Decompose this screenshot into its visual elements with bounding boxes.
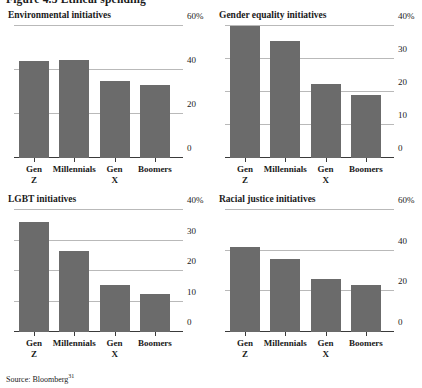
y-axis-tick-label: 40 — [187, 55, 196, 65]
y-axis-tick-label: 40% — [398, 11, 415, 21]
source-label: Source: Bloomberg — [6, 375, 68, 384]
x-tick-mark — [366, 332, 367, 336]
bar[interactable] — [230, 247, 260, 332]
bar[interactable] — [140, 294, 170, 332]
bar-slot — [225, 210, 265, 332]
chart-panel-environmental: Environmental initiatives 0204060% GenZM… — [0, 10, 211, 194]
chart-title: Environmental initiatives — [8, 10, 111, 20]
plot-area: 010203040% — [14, 210, 175, 332]
chart-grid: Environmental initiatives 0204060% GenZM… — [0, 10, 422, 368]
x-axis: GenZMillennialsGenXBoomers — [225, 158, 386, 194]
y-axis-tick-label: 10 — [187, 287, 196, 297]
bar[interactable] — [351, 285, 381, 332]
y-axis-tick-label: 0 — [398, 143, 403, 153]
x-tick-mark — [155, 158, 156, 162]
bar[interactable] — [351, 95, 381, 158]
x-axis-tick-label: Boomers — [129, 164, 181, 175]
y-axis-tick-label: 20 — [398, 77, 407, 87]
y-axis-tick-label: 20 — [398, 276, 407, 286]
bar[interactable] — [230, 26, 260, 158]
bar-group — [14, 26, 175, 158]
bar[interactable] — [19, 222, 49, 332]
chart-title: Racial justice initiatives — [219, 194, 316, 204]
bar[interactable] — [100, 81, 130, 158]
x-tick-mark — [326, 332, 327, 336]
x-tick-mark — [34, 332, 35, 336]
bar-slot — [265, 26, 305, 158]
figure-heading: Figure 4.3 Ethical spending — [6, 0, 146, 5]
bar-slot — [95, 26, 135, 158]
x-tick-slot: Boomers — [346, 158, 386, 194]
bar-slot — [54, 210, 94, 332]
x-tick-mark — [74, 158, 75, 162]
y-axis-tick-label: 40 — [398, 236, 407, 246]
bar[interactable] — [59, 251, 89, 332]
x-tick-slot: Boomers — [346, 332, 386, 368]
x-tick-mark — [115, 158, 116, 162]
bar-group — [225, 210, 386, 332]
bar-slot — [14, 26, 54, 158]
x-tick-mark — [366, 158, 367, 162]
bar-slot — [306, 210, 346, 332]
x-axis: GenZMillennialsGenXBoomers — [14, 332, 175, 368]
x-tick-mark — [245, 332, 246, 336]
chart-title: Gender equality initiatives — [219, 10, 327, 20]
bar-slot — [306, 26, 346, 158]
bar-group — [14, 210, 175, 332]
y-axis-tick-label: 60% — [187, 11, 204, 21]
y-axis-tick-label: 0 — [187, 143, 192, 153]
x-axis: GenZMillennialsGenXBoomers — [14, 158, 175, 194]
x-tick-mark — [285, 332, 286, 336]
x-tick-mark — [245, 158, 246, 162]
x-tick-mark — [285, 158, 286, 162]
y-axis-tick-label: 0 — [398, 317, 403, 327]
y-axis-tick-label: 30 — [187, 226, 196, 236]
x-axis-tick-label: Boomers — [340, 338, 392, 349]
bar[interactable] — [270, 41, 300, 158]
y-axis-tick-label: 60% — [398, 195, 415, 205]
x-axis: GenZMillennialsGenXBoomers — [225, 332, 386, 368]
plot-area: 0204060% — [225, 210, 386, 332]
bar-slot — [265, 210, 305, 332]
x-tick-slot: Boomers — [135, 332, 175, 368]
plot-area: 0204060% — [14, 26, 175, 158]
x-axis-tick-label: Boomers — [340, 164, 392, 175]
bar[interactable] — [59, 60, 89, 158]
bar[interactable] — [270, 259, 300, 332]
bar[interactable] — [100, 285, 130, 332]
bar-slot — [225, 26, 265, 158]
bar[interactable] — [140, 85, 170, 158]
x-tick-mark — [326, 158, 327, 162]
x-tick-mark — [155, 332, 156, 336]
bar[interactable] — [311, 84, 341, 158]
y-axis-tick-label: 30 — [398, 44, 407, 54]
bar-slot — [346, 26, 386, 158]
bar[interactable] — [19, 61, 49, 158]
bar-slot — [54, 26, 94, 158]
y-axis-tick-label: 10 — [398, 110, 407, 120]
y-axis-tick-label: 20 — [187, 256, 196, 266]
y-axis-tick-label: 20 — [187, 99, 196, 109]
bar-slot — [346, 210, 386, 332]
chart-panel-racial-justice: Racial justice initiatives 0204060% GenZ… — [211, 194, 422, 368]
bar-slot — [95, 210, 135, 332]
bar[interactable] — [311, 279, 341, 332]
plot-area: 010203040% — [225, 26, 386, 158]
x-tick-mark — [34, 158, 35, 162]
y-axis-tick-label: 0 — [187, 317, 192, 327]
bar-group — [225, 26, 386, 158]
x-tick-slot: Boomers — [135, 158, 175, 194]
y-axis-tick-label: 40% — [187, 195, 204, 205]
bar-slot — [135, 26, 175, 158]
x-axis-tick-label: Boomers — [129, 338, 181, 349]
chart-panel-lgbt: LGBT initiatives 010203040% GenZMillenni… — [0, 194, 211, 368]
bar-slot — [135, 210, 175, 332]
bar-slot — [14, 210, 54, 332]
source-footnote-marker: 31 — [68, 373, 74, 379]
chart-title: LGBT initiatives — [8, 194, 76, 204]
x-tick-mark — [74, 332, 75, 336]
x-tick-mark — [115, 332, 116, 336]
chart-panel-gender-equality: Gender equality initiatives 010203040% G… — [211, 10, 422, 194]
source-note: Source: Bloomberg31 — [6, 373, 74, 384]
